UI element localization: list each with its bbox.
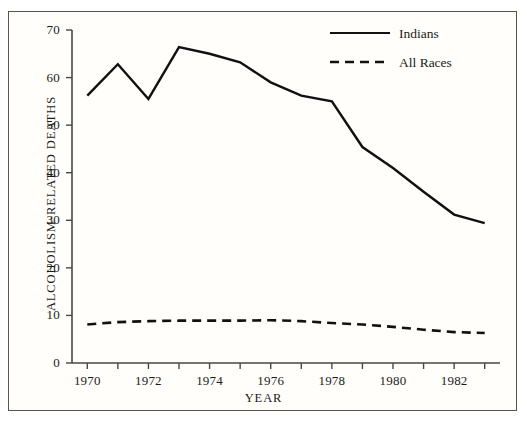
figure-container: 010203040506070 197019721974197619781980… [0, 0, 527, 424]
axis-ticks-group [66, 30, 485, 369]
legend-item-label-all-races: All Races [399, 55, 452, 71]
data-series-group [87, 47, 484, 333]
y-tick-label: 70 [16, 22, 60, 38]
x-tick-label: 1970 [74, 373, 101, 389]
legend-sample-lines-group [330, 33, 390, 62]
y-tick-label: 60 [16, 70, 60, 86]
x-axis-title: YEAR [0, 391, 527, 406]
y-tick-label: 0 [16, 355, 60, 371]
axes-group [72, 30, 500, 363]
x-tick-label: 1974 [196, 373, 223, 389]
legend-item-label-indians: Indians [399, 26, 439, 42]
x-tick-label: 1980 [380, 373, 407, 389]
x-tick-label: 1972 [135, 373, 162, 389]
x-tick-label: 1976 [257, 373, 284, 389]
x-tick-label: 1982 [441, 373, 468, 389]
x-tick-label: 1978 [318, 373, 345, 389]
y-axis-title: ALCOHOLISM-RELATED DEATHS [44, 89, 59, 319]
series-line-all-races [87, 320, 484, 333]
series-line-indians [87, 47, 484, 223]
